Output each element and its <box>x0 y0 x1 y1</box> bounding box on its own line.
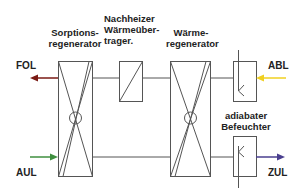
adiabatic-humidifier <box>234 137 257 189</box>
zul-arrow <box>256 154 285 161</box>
sorption-regenerator-label: Sorptions- regenerator <box>44 27 106 49</box>
aul-label: AUL <box>16 167 37 178</box>
aul-arrow <box>30 154 58 161</box>
label-line: Befeuchter <box>216 121 276 132</box>
label-line: adiabater <box>216 110 276 121</box>
exhaust-humidifier <box>234 50 257 102</box>
fol-arrow <box>30 75 58 82</box>
heat-regenerator <box>171 62 211 177</box>
reheater-label: Nachheizer Wärmeüber- trager. <box>104 13 160 46</box>
label-line: Sorptions- <box>44 27 106 38</box>
label-line: Nachheizer <box>104 13 160 24</box>
zul-label: ZUL <box>268 167 287 178</box>
humidifier-label: adiabater Befeuchter <box>216 110 276 132</box>
label-line: regenerator <box>166 38 216 49</box>
heat-regenerator-label: Wärme- regenerator <box>166 27 216 49</box>
abl-label: ABL <box>268 60 289 71</box>
fol-label: FOL <box>16 60 36 71</box>
sorption-regenerator <box>59 62 93 177</box>
label-line: Wärme- <box>166 27 216 38</box>
label-line: Wärmeüber- <box>104 24 160 35</box>
label-line: trager. <box>104 35 160 46</box>
label-line: regenerator <box>44 38 106 49</box>
abl-arrow <box>256 75 286 82</box>
reheater-heat-exchanger <box>120 62 143 102</box>
